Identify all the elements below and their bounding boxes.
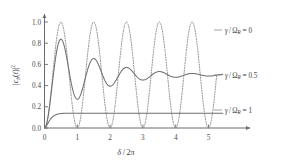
legend-slash: / [229, 27, 231, 35]
x-tick-label-1: 1 [76, 134, 80, 142]
legend-slash: / [229, 107, 231, 115]
legend-omega-subscript: R [237, 109, 242, 115]
legend-equals-value: = 0 [243, 27, 253, 35]
y-tick-label-0: 0.0 [32, 125, 41, 133]
legend-gamma-symbol: γ [225, 27, 228, 35]
x-label-pi: π [131, 148, 136, 157]
legend-item-gamma-0: γ/ΩR= 0 [225, 27, 252, 36]
legend-omega-subscript: R [237, 29, 242, 35]
y-axis-label: |cb(t)|2 [10, 65, 20, 85]
curve-gamma-0 [45, 22, 217, 128]
legend-slash: / [229, 72, 231, 80]
curve-gamma-1 [45, 113, 224, 128]
x-tick-marks [45, 125, 209, 128]
y-label-exponent: 2 [10, 65, 16, 68]
y-tick-label-3: 0.6 [32, 61, 41, 69]
x-tick-label-5: 5 [207, 134, 211, 142]
x-tick-label-0: 0 [43, 134, 47, 142]
legend-item-gamma-1: γ/ΩR= 1 [225, 107, 252, 116]
x-label-delta: δ [117, 148, 121, 157]
y-tick-label-5: 1.0 [32, 19, 41, 27]
legend-equals-value: = 1 [243, 107, 253, 115]
y-tick-label-2: 0.4 [32, 82, 41, 90]
legend-equals-value: = 0.5 [243, 72, 258, 80]
legend-leader-lines [214, 30, 222, 110]
y-tick-labels: 0.0 0.2 0.4 0.6 0.8 1.0 [32, 19, 41, 133]
x-tick-label-3: 3 [141, 134, 145, 142]
x-label-slash: / [123, 148, 126, 157]
y-tick-label-1: 0.2 [32, 103, 41, 111]
legend-item-gamma-0p5: γ/ΩR= 0.5 [225, 72, 258, 81]
legend-omega-subscript: R [237, 74, 242, 80]
curves-group [45, 22, 224, 128]
curve-gamma-0p5 [45, 39, 224, 128]
y-tick-label-4: 0.8 [32, 40, 41, 48]
x-tick-label-2: 2 [108, 134, 112, 142]
plot-svg: 0.0 0.2 0.4 0.6 0.8 1.0 0 1 2 3 4 5 [0, 0, 283, 161]
legend-gamma-symbol: γ [225, 72, 228, 80]
x-axis-label: δ/2π [117, 148, 135, 157]
legend-gamma-symbol: γ [225, 107, 228, 115]
y-tick-marks [45, 22, 49, 128]
legend-group: γ/ΩR= 0 γ/ΩR= 0.5 γ/ΩR= 1 [225, 27, 258, 116]
figure-rabi-oscillation: 0.0 0.2 0.4 0.6 0.8 1.0 0 1 2 3 4 5 [0, 0, 283, 161]
x-tick-label-4: 4 [174, 134, 178, 142]
x-tick-labels: 0 1 2 3 4 5 [43, 134, 211, 142]
